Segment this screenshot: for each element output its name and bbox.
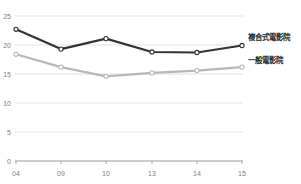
series-line-multiplex-cinema [14, 27, 244, 54]
x-tick-label-13: 13 [142, 170, 162, 177]
y-tick-label-20: 20 [0, 42, 11, 49]
line-chart: 25 20 15 10 5 0 04 09 10 13 14 15 複合式電影院… [0, 0, 301, 184]
legend-label-general-cinema: 一般電影院 [248, 57, 283, 65]
y-tick-label-0: 0 [0, 158, 11, 165]
x-tick-label-15: 15 [232, 170, 252, 177]
y-tick-label-25: 25 [0, 13, 11, 20]
x-tick-label-14: 14 [187, 170, 207, 177]
legend-label-multiplex-cinema: 複合式電影院 [248, 34, 290, 42]
series-line-general-cinema [14, 52, 244, 78]
y-tick-label-10: 10 [0, 100, 11, 107]
chart-plot-area [0, 0, 301, 184]
x-axis-baseline [15, 161, 243, 164]
y-tick-label-15: 15 [0, 71, 11, 78]
x-tick-label-04: 04 [6, 170, 26, 177]
y-tick-label-5: 5 [0, 129, 11, 136]
x-tick-label-09: 09 [51, 170, 71, 177]
x-tick-label-10: 10 [96, 170, 116, 177]
